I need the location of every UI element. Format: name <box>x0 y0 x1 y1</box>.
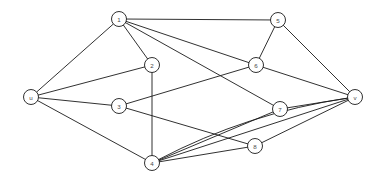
graph-edge-u-3 <box>38 98 111 105</box>
node-label-6: 6 <box>254 62 258 69</box>
graph-node-v[interactable]: v <box>348 90 363 105</box>
graph-node-8[interactable]: 8 <box>248 139 263 154</box>
graph-edge-u-2 <box>38 67 144 95</box>
graph-edge-u-1 <box>37 24 114 92</box>
node-label-4: 4 <box>150 160 154 167</box>
graph-node-5[interactable]: 5 <box>271 13 286 28</box>
graph-diagram: u12345678v <box>0 0 382 185</box>
graph-edge-6-v <box>263 67 348 94</box>
graph-node-7[interactable]: 7 <box>273 102 288 117</box>
graph-node-u[interactable]: u <box>24 90 39 105</box>
node-label-5: 5 <box>276 17 280 24</box>
node-label-8: 8 <box>253 143 257 150</box>
graph-edge-1-5 <box>126 19 270 20</box>
graph-node-3[interactable]: 3 <box>112 99 127 114</box>
node-layer: u12345678v <box>24 12 363 171</box>
graph-edge-5-6 <box>259 27 274 59</box>
graph-node-4[interactable]: 4 <box>145 156 160 171</box>
graph-edge-7-v <box>287 98 347 108</box>
node-label-2: 2 <box>150 62 154 69</box>
node-label-u: u <box>29 94 33 101</box>
node-label-7: 7 <box>278 106 282 113</box>
graph-node-2[interactable]: 2 <box>145 58 160 73</box>
graph-edge-1-2 <box>123 25 147 59</box>
graph-edge-1-6 <box>126 21 249 62</box>
graph-edge-5-v <box>283 25 349 91</box>
node-label-3: 3 <box>117 103 121 110</box>
node-label-1: 1 <box>117 16 121 23</box>
graph-edge-3-6 <box>126 67 249 104</box>
edge-layer <box>37 19 350 162</box>
graph-edge-3-8 <box>126 108 248 144</box>
graph-node-1[interactable]: 1 <box>112 12 127 27</box>
graph-node-6[interactable]: 6 <box>249 58 264 73</box>
